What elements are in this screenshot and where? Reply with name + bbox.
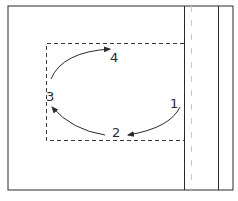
arrow-1-to-2 (128, 107, 180, 135)
label-2: 2 (112, 126, 120, 139)
label-3: 3 (46, 90, 54, 103)
label-4: 4 (110, 51, 118, 64)
arrow-2-to-3 (52, 107, 105, 135)
arrow-3-to-4 (51, 49, 110, 79)
outer-frame (8, 6, 233, 190)
diagram-canvas (0, 0, 238, 201)
label-1: 1 (170, 97, 178, 110)
